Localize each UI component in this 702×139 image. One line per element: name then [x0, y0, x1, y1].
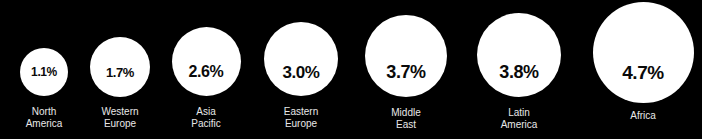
- bubble-chart: 1.1%North America1.7%Western Europe2.6%A…: [0, 0, 702, 139]
- bubble-circle: [172, 27, 241, 96]
- bubble-value: 3.8%: [477, 63, 561, 81]
- bubble-circle: [264, 22, 338, 96]
- bubble-value: 4.7%: [593, 63, 694, 82]
- bubble-value: 3.0%: [264, 64, 338, 81]
- bubble-label: North America: [9, 106, 79, 130]
- bubble-circle: [365, 15, 447, 97]
- bubble-group: 3.8%Latin America: [477, 0, 561, 139]
- bubble-label: Asia Pacific: [171, 106, 241, 130]
- bubble-value: 1.1%: [20, 66, 68, 78]
- bubble-circle: [593, 2, 694, 103]
- bubble-value: 3.7%: [365, 63, 447, 81]
- bubble-value: 2.6%: [172, 64, 241, 80]
- bubble-value: 1.7%: [90, 66, 150, 79]
- bubble-label: Africa: [593, 110, 694, 122]
- bubble-label: Eastern Europe: [264, 106, 338, 130]
- bubble-circle: [477, 13, 561, 97]
- bubble-label: Middle East: [365, 107, 447, 131]
- bubble-group: 3.0%Eastern Europe: [264, 0, 338, 139]
- bubble-group: 1.1%North America: [20, 0, 68, 139]
- bubble-group: 2.6%Asia Pacific: [172, 0, 241, 139]
- bubble-group: 4.7%Africa: [593, 0, 694, 139]
- bubble-label: Western Europe: [85, 106, 155, 130]
- bubble-group: 3.7%Middle East: [365, 0, 447, 139]
- bubble-group: 1.7%Western Europe: [90, 0, 150, 139]
- bubble-label: Latin America: [477, 107, 561, 131]
